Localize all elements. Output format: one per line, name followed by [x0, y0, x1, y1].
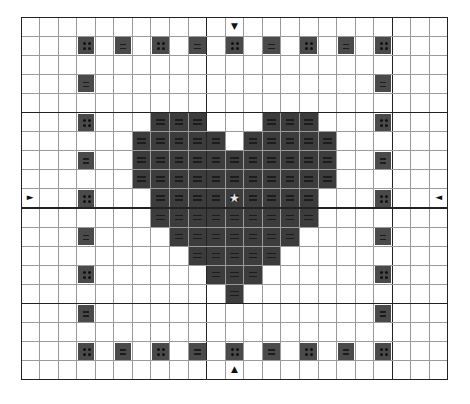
gridline [113, 17, 114, 380]
dots-motif [78, 114, 95, 131]
fill [188, 113, 207, 132]
gridline [21, 322, 448, 323]
line-symbol [286, 161, 295, 163]
line-symbol [286, 119, 295, 121]
line-symbol [380, 82, 387, 84]
line-symbol [193, 142, 202, 144]
fill [170, 151, 189, 170]
fill [318, 151, 337, 170]
dot-symbol [380, 353, 383, 356]
gridline [21, 360, 448, 361]
fill [244, 132, 263, 151]
line-symbol [286, 234, 295, 236]
line-symbol [380, 311, 387, 313]
line-symbol [267, 253, 276, 255]
border-cell-lines [77, 151, 96, 170]
dot-symbol [385, 42, 388, 45]
heart-cell [170, 151, 189, 170]
heart-cell [262, 246, 281, 265]
heart-cell [244, 151, 263, 170]
dot-symbol [231, 353, 234, 356]
lines-motif [375, 305, 392, 322]
line-symbol [193, 157, 202, 159]
line-symbol [249, 257, 258, 259]
dot-symbol [305, 348, 308, 351]
heart-cell [132, 170, 151, 189]
line-symbol [83, 162, 90, 164]
fill [225, 284, 244, 303]
lines-motif [115, 343, 132, 360]
heart-cell [225, 151, 244, 170]
gridline [410, 17, 411, 380]
line-symbol [230, 176, 239, 178]
gridline [39, 17, 40, 380]
center-arrow-up: ▲ [225, 361, 244, 380]
line-symbol [304, 157, 313, 159]
line-symbol [175, 215, 184, 217]
heart-cell [262, 113, 281, 132]
dot-symbol [83, 195, 86, 198]
heart-cell [281, 189, 300, 208]
line-symbol [175, 138, 184, 140]
fill [244, 246, 263, 265]
line-symbol [83, 86, 90, 88]
heart-cell [188, 227, 207, 246]
line-symbol [267, 157, 276, 159]
gridline [188, 17, 189, 380]
heart-cell [207, 151, 226, 170]
heart-cell [262, 227, 281, 246]
dot-symbol [83, 42, 86, 45]
heart-cell [299, 151, 318, 170]
heart-cell [188, 189, 207, 208]
dot-symbol [310, 42, 313, 45]
fill [151, 208, 170, 227]
heart-cell [225, 227, 244, 246]
line-symbol [286, 180, 295, 182]
fill [170, 208, 189, 227]
heart-cell [225, 208, 244, 227]
heart-cell [244, 189, 263, 208]
dot-symbol [380, 124, 383, 127]
line-symbol [212, 234, 221, 236]
dot-symbol [88, 353, 91, 356]
fill [188, 208, 207, 227]
border-cell-lines [77, 304, 96, 323]
gridline [21, 150, 448, 151]
dot-symbol [88, 200, 91, 203]
fill [244, 265, 263, 284]
border-cell-lines [374, 74, 393, 93]
fill [207, 189, 226, 208]
lines-motif [375, 152, 392, 169]
dot-symbol [157, 47, 160, 50]
dots-motif [78, 266, 95, 283]
line-symbol [268, 44, 275, 46]
fill [262, 208, 281, 227]
line-symbol [212, 257, 221, 259]
line-symbol [83, 235, 90, 237]
gridline [21, 284, 448, 285]
fill [244, 189, 263, 208]
line-symbol [267, 257, 276, 259]
line-symbol [156, 199, 165, 201]
arrow-down-icon: ▼ [225, 22, 244, 31]
dot-symbol [385, 348, 388, 351]
line-symbol [286, 157, 295, 159]
fill [262, 246, 281, 265]
gridline [21, 36, 448, 37]
heart-cell [225, 170, 244, 189]
line-symbol [156, 180, 165, 182]
dot-symbol [83, 276, 86, 279]
line-symbol [267, 123, 276, 125]
dot-symbol [380, 195, 383, 198]
dot-symbol [385, 195, 388, 198]
fill [207, 151, 226, 170]
gridline [262, 17, 263, 380]
heart-cell [262, 151, 281, 170]
heart-cell [262, 170, 281, 189]
major-gridline [21, 112, 448, 114]
line-symbol [193, 180, 202, 182]
line-symbol [230, 276, 239, 278]
fill [207, 227, 226, 246]
gridline [58, 17, 59, 380]
lines-motif [263, 37, 280, 54]
